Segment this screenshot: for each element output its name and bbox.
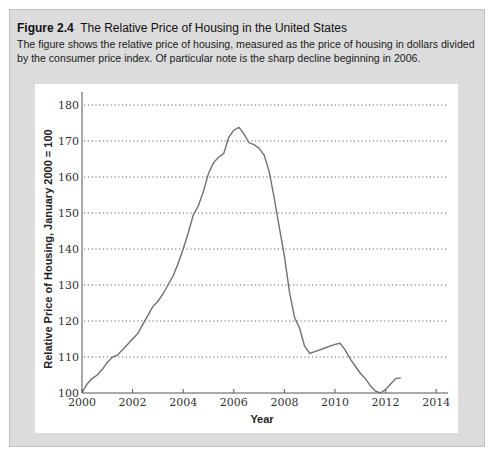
- y-axis-label: Relative Price of Housing, January 2000 …: [42, 129, 54, 368]
- x-tick-label: 2008: [270, 396, 298, 409]
- x-tick-label: 2012: [372, 396, 400, 409]
- data-line: [82, 127, 401, 393]
- y-axis-ticks: 100110120130140150160170180: [58, 99, 79, 400]
- y-tick-label: 120: [58, 315, 79, 328]
- y-tick-label: 110: [58, 351, 79, 364]
- y-tick-label: 170: [58, 135, 79, 148]
- line-chart: 100110120130140150160170180 200020022004…: [0, 0, 498, 466]
- y-tick-label: 160: [58, 171, 79, 184]
- x-axis-label: Year: [250, 413, 274, 425]
- y-tick-label: 150: [58, 207, 79, 220]
- x-tick-label: 2002: [119, 396, 147, 409]
- x-tick-label: 2010: [321, 396, 349, 409]
- y-tick-label: 180: [58, 99, 79, 112]
- x-tick-label: 2014: [422, 396, 450, 409]
- x-tick-label: 2000: [68, 396, 96, 409]
- y-tick-label: 140: [58, 243, 79, 256]
- axes: [82, 92, 448, 393]
- y-tick-label: 130: [58, 279, 79, 292]
- x-tick-label: 2006: [220, 396, 248, 409]
- x-axis-ticks: 20002002200420062008201020122014: [68, 389, 450, 409]
- x-tick-label: 2004: [169, 396, 197, 409]
- gridlines: [84, 105, 448, 357]
